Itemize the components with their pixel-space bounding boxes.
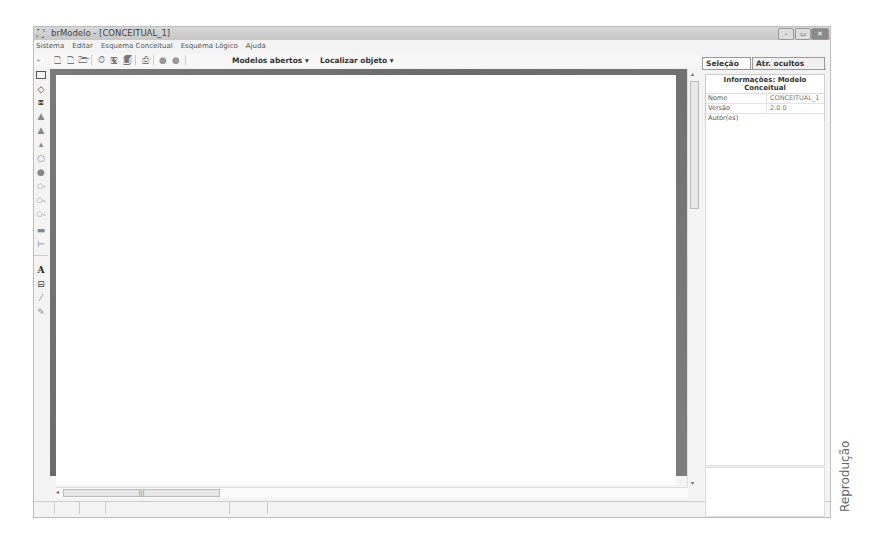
brush-tool-icon[interactable]: ✎ — [36, 307, 46, 317]
description-box — [705, 467, 825, 517]
identifier-attribute-tool-icon[interactable]: ● — [36, 167, 46, 177]
title-bar: ⛶ brModelo - [CONCEITUAL_1] – ▭ ✕ — [34, 27, 830, 40]
tool-palette: ◇ ⧈ ▲ ▲ ▴ ○ ● ○ᵢ ○ₒ ○ₙ ▬ ⊢ A ⊟ ⁄ ✎ — [34, 69, 48, 509]
new-logical-icon[interactable]: 🗋 — [65, 55, 75, 65]
status-cell — [55, 502, 80, 514]
properties-panel: Seleção Atr. ocultos Informações: Modelo… — [702, 57, 826, 515]
property-row[interactable]: Versão2.0.0 — [706, 104, 824, 114]
scroll-down-icon[interactable]: ▾ — [691, 479, 694, 486]
app-window: ⛶ brModelo - [CONCEITUAL_1] – ▭ ✕ Sistem… — [33, 26, 831, 518]
vertical-scrollbar[interactable]: ▴ ▾ — [687, 69, 700, 493]
save-as-icon[interactable]: 🗐 — [122, 55, 132, 65]
save-icon[interactable]: 🖫 — [109, 55, 119, 65]
property-value[interactable]: 2.0.0 — [767, 104, 787, 113]
self-relationship-tool-icon[interactable]: ⊢ — [36, 239, 46, 249]
open-models-dropdown[interactable]: Modelos abertos ▾ — [232, 54, 309, 67]
compound-attribute-tool-icon[interactable]: ○ᵢ — [36, 181, 46, 191]
scroll-left-icon[interactable]: ◂ — [56, 488, 59, 495]
menu-editar[interactable]: Editar — [72, 41, 93, 52]
specialization-optional-tool-icon[interactable]: ▴ — [36, 139, 46, 149]
palette-separator — [34, 255, 48, 256]
toolbar: ▸ 🗋 🗋 🗁 ⏱ 🖫 🗐 ⎙ ● ● Modelos abertos ▾ Lo… — [34, 54, 699, 67]
app-icon: ⛶ — [37, 28, 44, 40]
toolbar-separator — [153, 55, 154, 65]
photo-credit: Reprodução — [838, 441, 852, 512]
minimize-button[interactable]: – — [778, 28, 794, 40]
optional-attribute-tool-icon[interactable]: ○ₒ — [36, 195, 46, 205]
window-title: brModelo - [CONCEITUAL_1] — [51, 27, 170, 40]
tab-selecao[interactable]: Seleção — [702, 57, 751, 69]
maximize-button[interactable]: ▭ — [795, 28, 811, 40]
associative-entity-tool-icon[interactable]: ⧈ — [36, 97, 46, 107]
properties-title: Informações: Modelo Conceitual — [706, 75, 824, 94]
toolbar-grip-icon: ▸ — [34, 55, 44, 65]
new-conceptual-icon[interactable]: 🗋 — [52, 55, 62, 65]
find-object-dropdown[interactable]: Localizar objeto ▾ — [320, 54, 394, 67]
toolbar-separator — [135, 55, 136, 65]
multivalued-attribute-tool-icon[interactable]: ○ₙ — [36, 209, 46, 219]
status-cell — [80, 502, 106, 514]
status-cell — [34, 502, 55, 514]
properties-area — [705, 121, 825, 466]
horizontal-scrollbar[interactable]: ◂ ||| — [56, 487, 688, 498]
close-button[interactable]: ✕ — [811, 28, 829, 40]
eraser-tool-icon[interactable]: ⁄ — [36, 293, 46, 303]
specialization-tool-icon[interactable]: ▲ — [36, 111, 46, 121]
toolbar-separator — [185, 55, 186, 65]
tab-divider — [702, 69, 826, 70]
property-row[interactable]: NomeCONCEITUAL_1 — [706, 94, 824, 104]
status-cell — [106, 502, 230, 514]
tab-atr-ocultos[interactable]: Atr. ocultos — [752, 57, 825, 69]
vertical-scroll-thumb[interactable] — [690, 81, 699, 209]
menu-ajuda[interactable]: Ajuda — [246, 41, 266, 52]
menu-bar: Sistema Editar Esquema Conceitual Esquem… — [34, 41, 830, 52]
horizontal-scroll-thumb[interactable]: ||| — [63, 489, 220, 497]
open-icon[interactable]: 🗁 — [78, 55, 88, 65]
menu-esquema-logico[interactable]: Esquema Lógico — [181, 41, 238, 52]
back-icon[interactable]: ● — [158, 55, 168, 65]
entity-tool-icon[interactable] — [36, 71, 46, 79]
relationship-tool-icon[interactable]: ◇ — [36, 84, 46, 94]
chevron-down-icon: ▾ — [305, 56, 309, 65]
link-tool-icon[interactable]: ▬ — [36, 225, 46, 235]
timer-icon[interactable]: ⏱ — [96, 55, 106, 65]
diagram-canvas[interactable] — [56, 75, 676, 485]
status-cell — [230, 502, 268, 514]
property-value[interactable]: CONCEITUAL_1 — [767, 94, 819, 103]
attribute-tool-icon[interactable]: ○ — [36, 153, 46, 163]
forward-icon[interactable]: ● — [171, 55, 181, 65]
menu-esquema-conceitual[interactable]: Esquema Conceitual — [101, 41, 173, 52]
menu-sistema[interactable]: Sistema — [36, 41, 64, 52]
text-tool-icon[interactable]: A — [36, 265, 46, 275]
comment-tool-icon[interactable]: ⊟ — [36, 279, 46, 289]
specialization-exclusive-tool-icon[interactable]: ▲ — [36, 125, 46, 135]
scroll-up-icon[interactable]: ▴ — [691, 70, 694, 77]
print-icon[interactable]: ⎙ — [140, 55, 150, 65]
toolbar-separator — [91, 55, 92, 65]
chevron-down-icon: ▾ — [390, 56, 394, 65]
